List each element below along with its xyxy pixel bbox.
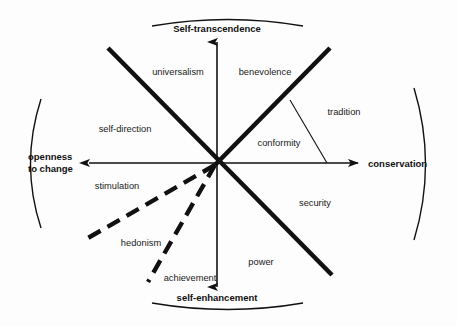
value-label-conformity: conformity bbox=[258, 138, 301, 148]
thin-divider-group bbox=[290, 100, 327, 163]
bottom-arc-icon bbox=[152, 303, 303, 310]
outer-arc-group bbox=[31, 20, 426, 310]
value-label-power: power bbox=[248, 257, 273, 267]
value-label-benevolence: benevolence bbox=[239, 67, 292, 77]
dimension-label-self-enhancement: self-enhancement bbox=[177, 292, 259, 303]
schwartz-values-diagram: Self-transcendence self-enhancement open… bbox=[0, 0, 457, 326]
dimension-label-openness-line2: to change bbox=[28, 163, 73, 174]
value-label-security: security bbox=[299, 198, 331, 208]
values-circle-svg: Self-transcendence self-enhancement open… bbox=[0, 0, 457, 326]
value-label-stimulation: stimulation bbox=[95, 181, 139, 191]
value-label-universalism: universalism bbox=[152, 67, 204, 77]
achievement-divider-line bbox=[148, 165, 215, 282]
hedonism-divider-line bbox=[88, 165, 215, 238]
value-label-hedonism: hedonism bbox=[121, 238, 162, 248]
value-label-tradition: tradition bbox=[327, 107, 360, 117]
dimension-label-openness-line1: openness bbox=[28, 151, 72, 162]
conformity-tradition-divider-line bbox=[290, 100, 327, 163]
value-label-self-direction: self-direction bbox=[99, 124, 152, 134]
value-label-achievement: achievement bbox=[164, 273, 217, 283]
dimension-label-conservation: conservation bbox=[368, 158, 427, 169]
dimension-label-self-transcendence: Self-transcendence bbox=[173, 23, 261, 34]
